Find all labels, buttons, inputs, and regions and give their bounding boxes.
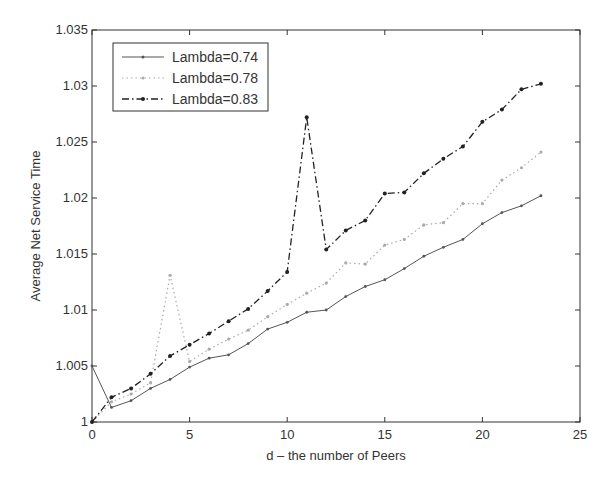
data-point — [90, 420, 94, 424]
data-point — [247, 329, 250, 332]
y-tick-label: 1.02 — [63, 190, 88, 205]
y-tick-label: 1.015 — [55, 246, 88, 261]
data-point — [266, 315, 269, 318]
data-point — [208, 348, 211, 351]
data-point — [188, 360, 191, 363]
y-tick-label: 1.035 — [55, 22, 88, 37]
data-point — [188, 343, 192, 347]
data-point — [422, 223, 425, 226]
data-point — [500, 108, 504, 112]
data-point — [129, 392, 132, 395]
legend-label: Lambda=0.78 — [172, 70, 258, 86]
data-point — [539, 82, 543, 86]
x-tick-label: 20 — [475, 427, 489, 442]
data-point — [286, 303, 289, 306]
data-point — [130, 399, 133, 402]
data-point — [110, 406, 113, 409]
y-tick-label: 1 — [81, 414, 88, 429]
data-point — [344, 228, 348, 232]
data-point — [129, 386, 133, 390]
data-point — [441, 157, 445, 161]
data-point — [168, 354, 172, 358]
data-point — [403, 267, 406, 270]
data-point — [363, 218, 367, 222]
y-tick-label: 1.025 — [55, 134, 88, 149]
data-point — [188, 366, 191, 369]
data-point — [324, 248, 328, 252]
data-point — [461, 144, 465, 148]
y-tick-label: 1.005 — [55, 358, 88, 373]
data-point — [286, 321, 289, 324]
data-point — [344, 295, 347, 298]
data-point — [110, 395, 114, 399]
x-axis-title: d – the number of Peers — [266, 448, 406, 463]
data-point — [344, 261, 347, 264]
legend-marker — [142, 56, 145, 59]
data-point — [168, 274, 171, 277]
data-point — [539, 150, 542, 153]
data-point — [422, 255, 425, 258]
legend: Lambda=0.74Lambda=0.78Lambda=0.83 — [113, 43, 268, 111]
data-point — [383, 278, 386, 281]
data-point — [520, 166, 523, 169]
legend-label: Lambda=0.74 — [172, 49, 258, 65]
data-point — [383, 243, 386, 246]
data-point — [364, 285, 367, 288]
data-point — [481, 222, 484, 225]
data-point — [461, 202, 464, 205]
data-point — [461, 238, 464, 241]
data-point — [91, 365, 94, 368]
data-point — [442, 246, 445, 249]
data-point — [364, 262, 367, 265]
data-point — [169, 378, 172, 381]
data-point — [325, 309, 328, 312]
x-tick-label: 10 — [280, 427, 294, 442]
data-point — [480, 120, 484, 124]
data-point — [422, 171, 426, 175]
data-point — [227, 319, 231, 323]
data-point — [500, 178, 503, 181]
x-tick-label: 0 — [88, 427, 95, 442]
data-point — [325, 282, 328, 285]
x-tick-label: 5 — [186, 427, 193, 442]
data-point — [305, 115, 309, 119]
y-tick-label: 1.01 — [63, 302, 88, 317]
data-point — [403, 238, 406, 241]
line-chart: 0510152025 11.0051.011.0151.021.0251.031… — [0, 0, 614, 482]
y-tick-label: 1.03 — [63, 78, 88, 93]
data-point — [149, 372, 153, 376]
legend-label: Lambda=0.83 — [172, 91, 258, 107]
data-point — [208, 357, 211, 360]
data-point — [442, 221, 445, 224]
data-point — [227, 338, 230, 341]
data-point — [383, 192, 387, 196]
data-point — [266, 289, 270, 293]
legend-marker — [141, 97, 145, 101]
y-axis-title: Average Net Service Time — [28, 151, 43, 302]
data-point — [481, 202, 484, 205]
data-point — [305, 292, 308, 295]
data-point — [246, 307, 250, 311]
data-point — [520, 204, 523, 207]
data-point — [540, 194, 543, 197]
data-point — [519, 87, 523, 91]
data-point — [266, 328, 269, 331]
data-point — [305, 311, 308, 314]
data-point — [247, 342, 250, 345]
data-point — [110, 400, 113, 403]
data-point — [207, 332, 211, 336]
data-point — [285, 270, 289, 274]
data-point — [149, 387, 152, 390]
data-point — [402, 190, 406, 194]
x-tick-label: 15 — [378, 427, 392, 442]
x-tick-label: 25 — [573, 427, 587, 442]
data-point — [227, 353, 230, 356]
data-point — [149, 381, 152, 384]
data-point — [501, 211, 504, 214]
legend-marker — [142, 77, 145, 80]
